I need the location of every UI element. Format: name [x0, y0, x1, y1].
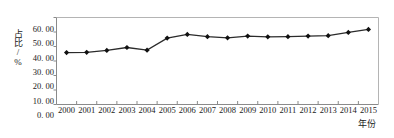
- series-occupancy-ratio: [64, 27, 371, 55]
- line-chart: 占比/% 60. 00 50. 00 40. 00 30. 00 20. 00 …: [0, 0, 394, 138]
- x-tick-label: 2005: [159, 105, 176, 116]
- x-tick-label: 2012: [300, 105, 317, 116]
- x-tick-label: 2008: [219, 105, 236, 116]
- data-point-marker: [305, 33, 310, 38]
- data-point-marker: [285, 34, 290, 39]
- x-axis-title: 年份: [358, 119, 376, 130]
- data-point-marker: [205, 34, 210, 39]
- data-point-marker: [346, 30, 351, 35]
- x-tick-label: 2001: [78, 105, 95, 116]
- data-point-marker: [124, 45, 129, 50]
- x-tick-label: 2007: [199, 105, 216, 116]
- x-tick-label: 2003: [118, 105, 135, 116]
- x-tick-label: 2006: [179, 105, 196, 116]
- x-axis-ticks: [77, 101, 359, 105]
- data-point-marker: [225, 35, 230, 40]
- x-tick-label: 2004: [139, 105, 156, 116]
- data-point-marker: [366, 27, 371, 32]
- x-tick-label: 2000: [58, 105, 75, 116]
- data-point-marker: [245, 33, 250, 38]
- data-point-marker: [326, 33, 331, 38]
- axes-frame: [57, 18, 379, 105]
- x-tick-label: 2013: [320, 105, 337, 116]
- x-tick-label: 2002: [98, 105, 115, 116]
- x-tick-label: 2015: [360, 105, 377, 116]
- data-point-marker: [64, 50, 69, 55]
- x-tick-label: 2010: [259, 105, 276, 116]
- x-tick-label: 2009: [239, 105, 256, 116]
- data-point-marker: [104, 48, 109, 53]
- data-point-marker: [185, 32, 190, 37]
- x-tick-label: 2011: [280, 105, 297, 116]
- x-axis-tick-labels: 2000200120022003200420052006200720082009…: [0, 105, 394, 119]
- x-tick-label: 2014: [340, 105, 357, 116]
- data-point-marker: [84, 50, 89, 55]
- data-point-marker: [265, 34, 270, 39]
